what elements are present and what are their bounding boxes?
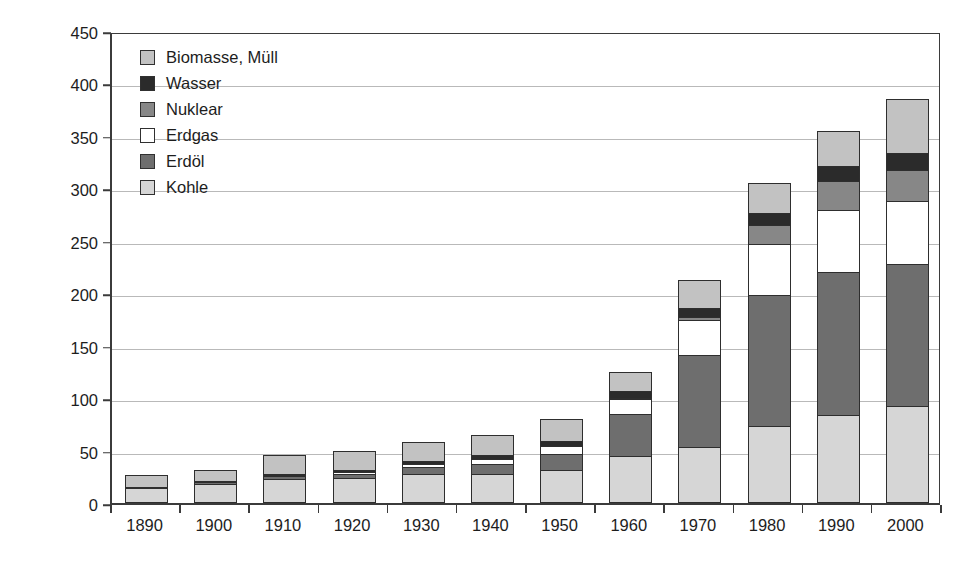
bar-segment[interactable] [817,210,860,273]
legend-item[interactable]: Erdöl [140,148,355,174]
bar-segment[interactable] [748,213,791,227]
bar-stack[interactable] [748,184,791,503]
bar-segment[interactable] [194,484,237,503]
gridline [112,349,939,350]
x-axis-tick-mark [802,505,804,513]
bar-segment[interactable] [817,166,860,182]
bar-segment[interactable] [333,478,376,503]
bar-segment[interactable] [748,225,791,245]
legend-item[interactable]: Kohle [140,174,355,200]
bar-stack[interactable] [125,476,168,503]
bar-segment[interactable] [609,391,652,399]
bar-segment[interactable] [125,475,168,489]
gridline [112,401,939,402]
bar-stack[interactable] [886,100,929,503]
x-axis-tick-mark [179,505,181,513]
legend-item[interactable]: Wasser [140,70,355,96]
bar-segment[interactable] [125,488,168,503]
x-axis-tick-label: 1950 [520,515,600,535]
legend: Biomasse, MüllWasserNuklearErdgasErdölKo… [140,44,355,200]
x-axis-tick-mark [110,505,112,513]
y-axis-tick-label: 450 [30,24,98,42]
x-axis-tick-mark [871,505,873,513]
bar-stack[interactable] [471,436,514,503]
bar-segment[interactable] [540,454,583,471]
legend-item[interactable]: Nuklear [140,96,355,122]
bar-segment[interactable] [263,479,306,503]
x-axis-tick-mark [594,505,596,513]
legend-swatch-icon [140,76,155,91]
gridline [112,296,939,297]
bar-segment[interactable] [471,474,514,503]
legend-swatch-icon [140,180,155,195]
bar-segment[interactable] [263,455,306,475]
x-axis-tick-label: 1990 [796,515,876,535]
x-axis-tick-label: 1960 [589,515,669,535]
x-axis-tick-label: 1980 [727,515,807,535]
bar-segment[interactable] [678,280,721,309]
bar-segment[interactable] [402,467,445,474]
legend-item-label: Wasser [166,74,221,92]
bar-segment[interactable] [471,435,514,456]
bar-segment[interactable] [678,308,721,318]
bar-segment[interactable] [817,181,860,211]
bar-segment[interactable] [748,426,791,503]
y-axis-tick-label: 350 [30,129,98,147]
legend-item-label: Erdöl [166,152,205,170]
bar-segment[interactable] [471,464,514,474]
legend-swatch-icon [140,102,155,117]
bar-stack[interactable] [333,452,376,503]
y-axis-tick-label: 100 [30,391,98,409]
chart-figure: Verbrauch (EJ) 0501001502002503003504004… [0,0,967,566]
bar-stack[interactable] [540,420,583,503]
bar-segment[interactable] [540,419,583,442]
x-axis-tick-label: 1940 [450,515,530,535]
bar-segment[interactable] [678,320,721,357]
bar-segment[interactable] [678,447,721,503]
bar-segment[interactable] [609,372,652,392]
legend-swatch-icon [140,50,155,65]
y-axis-tick-label: 300 [30,181,98,199]
bar-segment[interactable] [402,474,445,503]
bar-segment[interactable] [886,264,929,407]
bar-segment[interactable] [540,446,583,454]
bar-stack[interactable] [678,281,721,503]
x-axis-tick-label: 1890 [105,515,185,535]
bar-stack[interactable] [817,132,860,503]
bar-segment[interactable] [748,244,791,296]
bar-segment[interactable] [333,451,376,471]
bar-segment[interactable] [609,399,652,415]
bar-segment[interactable] [609,456,652,503]
bar-segment[interactable] [886,99,929,153]
bar-segment[interactable] [748,183,791,213]
x-axis-tick-label: 1910 [243,515,323,535]
bar-segment[interactable] [817,272,860,416]
x-axis-tick-mark [663,505,665,513]
bar-segment[interactable] [817,131,860,168]
y-axis-tick-label: 0 [30,496,98,514]
bar-stack[interactable] [263,456,306,503]
x-axis-tick-mark [940,505,942,513]
bar-segment[interactable] [402,442,445,462]
bar-segment[interactable] [886,406,929,503]
legend-item-label: Nuklear [166,100,223,118]
y-axis-tick-label: 50 [30,444,98,462]
bar-segment[interactable] [540,470,583,504]
legend-item[interactable]: Erdgas [140,122,355,148]
x-axis-tick-mark [318,505,320,513]
bar-stack[interactable] [194,471,237,504]
bar-segment[interactable] [886,153,929,171]
legend-item[interactable]: Biomasse, Müll [140,44,355,70]
bar-stack[interactable] [609,373,652,503]
x-axis-tick-mark [387,505,389,513]
bar-segment[interactable] [748,295,791,427]
bar-segment[interactable] [886,201,929,265]
bar-stack[interactable] [402,443,445,503]
y-axis-tick-label: 400 [30,76,98,94]
bar-segment[interactable] [817,415,860,503]
legend-swatch-icon [140,154,155,169]
bar-segment[interactable] [194,470,237,483]
bar-segment[interactable] [886,170,929,202]
bar-segment[interactable] [609,414,652,457]
bar-segment[interactable] [678,355,721,448]
